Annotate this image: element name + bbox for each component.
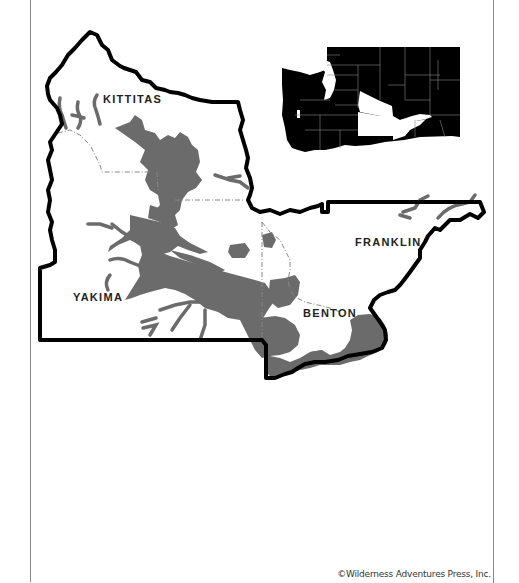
county-label-kittitas: KITTITAS bbox=[103, 93, 162, 105]
county-label-benton: BENTON bbox=[303, 307, 357, 319]
county-label-franklin: FRANKLIN bbox=[355, 236, 422, 248]
washington-inset-map bbox=[282, 47, 460, 152]
copyright-credit: ©Wilderness Adventures Press, Inc. bbox=[337, 569, 491, 579]
county-label-yakima: YAKIMA bbox=[73, 291, 123, 303]
